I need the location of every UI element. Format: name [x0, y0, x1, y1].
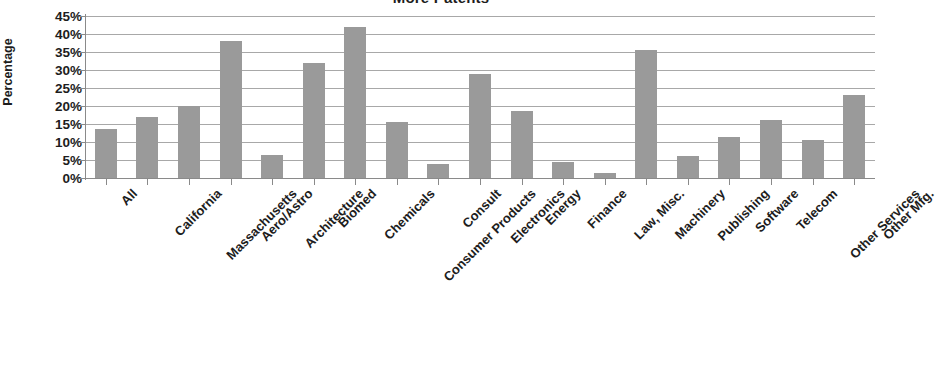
bar [635, 50, 657, 178]
x-tick-mark [813, 178, 814, 185]
x-tick-mark [563, 178, 564, 185]
bar [386, 122, 408, 178]
x-tick-mark [688, 178, 689, 185]
x-tick-mark [854, 178, 855, 185]
x-tick-mark [314, 178, 315, 185]
y-tick-mark [79, 34, 86, 35]
bar [760, 120, 782, 178]
y-tick-label: 5% [28, 153, 82, 168]
y-tick-mark [79, 178, 86, 179]
x-tick-label: Chemicals [381, 186, 438, 243]
x-tick-mark [272, 178, 273, 185]
x-tick-mark [231, 178, 232, 185]
y-tick-label: 40% [28, 27, 82, 42]
y-tick-label: 0% [28, 171, 82, 186]
y-axis-title: Percentage [1, 17, 17, 127]
x-tick-label: Massachusetts [223, 186, 300, 263]
y-tick-mark [79, 88, 86, 89]
bar [344, 27, 366, 178]
x-tick-label: California [172, 186, 225, 239]
bar [136, 117, 158, 178]
x-tick-label: Other Services [847, 186, 923, 262]
y-tick-label: 30% [28, 63, 82, 78]
x-tick-mark [605, 178, 606, 185]
bar [469, 74, 491, 178]
x-tick-mark [106, 178, 107, 185]
y-tick-mark [79, 70, 86, 71]
y-axis-tick-labels: 45%40%35%30%25%20%15%10%5%0% [28, 16, 82, 178]
x-tick-mark [646, 178, 647, 185]
x-tick-mark [397, 178, 398, 185]
y-tick-label: 20% [28, 99, 82, 114]
x-tick-mark [189, 178, 190, 185]
x-tick-mark [771, 178, 772, 185]
y-tick-mark [79, 160, 86, 161]
bar [95, 129, 117, 178]
y-tick-label: 45% [28, 9, 82, 24]
x-tick-mark [438, 178, 439, 185]
bar [677, 156, 699, 178]
y-tick-mark [79, 52, 86, 53]
bar-series [85, 16, 875, 178]
y-tick-label: 25% [28, 81, 82, 96]
plot-area [85, 16, 875, 178]
bar [802, 140, 824, 178]
x-tick-label: Finance [585, 186, 630, 231]
x-tick-mark [729, 178, 730, 185]
bar [178, 106, 200, 178]
x-axis-tick-labels: AllCaliforniaMassachusettsAero/AstroArch… [85, 186, 875, 361]
x-tick-mark [480, 178, 481, 185]
bar [511, 111, 533, 178]
bar [718, 137, 740, 178]
bar [261, 155, 283, 178]
bar [843, 95, 865, 178]
x-tick-mark [355, 178, 356, 185]
bar [427, 164, 449, 178]
bar [303, 63, 325, 178]
x-tick-mark [147, 178, 148, 185]
y-tick-mark [79, 106, 86, 107]
chart-title: More Patents [0, 0, 882, 6]
bar [552, 162, 574, 178]
bar [220, 41, 242, 178]
x-tick-mark [522, 178, 523, 185]
y-tick-label: 10% [28, 135, 82, 150]
y-tick-label: 15% [28, 117, 82, 132]
x-tick-label: Telecom [793, 186, 840, 233]
x-axis-tick-marks [85, 178, 875, 185]
y-tick-mark [79, 16, 86, 17]
x-tick-label: All [118, 186, 140, 208]
y-tick-label: 35% [28, 45, 82, 60]
y-tick-mark [79, 124, 86, 125]
y-tick-mark [79, 142, 86, 143]
